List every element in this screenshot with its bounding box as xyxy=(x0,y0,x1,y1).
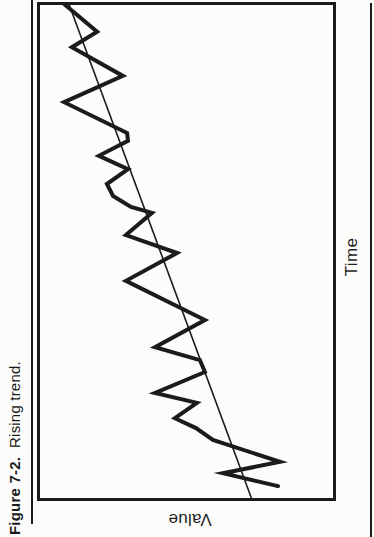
chart-canvas xyxy=(0,0,374,537)
trend-line xyxy=(69,4,252,500)
scanned-figure-page: Figure 7-2.Rising trend. Time Value xyxy=(0,0,374,537)
value-series-line xyxy=(64,4,280,486)
x-axis-label: Time xyxy=(342,217,362,297)
y-axis-label: Value xyxy=(150,509,230,529)
page-bottom-rule xyxy=(370,3,372,537)
